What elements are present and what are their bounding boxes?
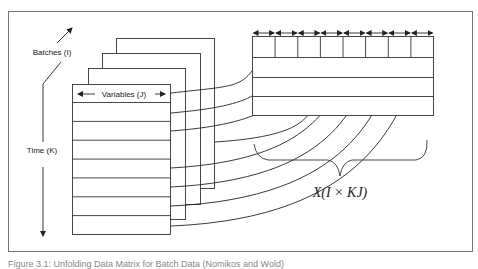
figure-caption: Figure 3.1: Unfolding Data Matrix for Ba… [8,259,284,269]
unfolded-matrix-label: X(I × KJ) [312,185,368,201]
unfolded-matrix [253,33,434,116]
front-sheet: Variables (J) [73,85,171,235]
time-axis-upper [43,62,61,142]
variables-label: Variables (J) [102,90,147,99]
brace [254,140,427,176]
time-label: Time (K) [27,146,58,155]
batches-arrow [57,28,72,43]
batches-label: Batches (I) [33,48,72,57]
